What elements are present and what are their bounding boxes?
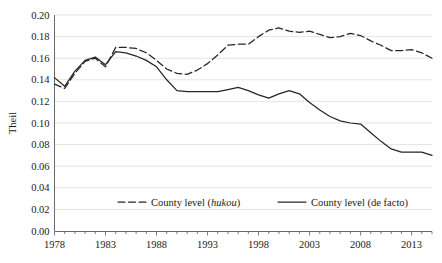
y-tick-label: 0.18 <box>31 31 49 42</box>
x-tick-label: 1993 <box>197 239 218 250</box>
y-tick-label: 0.16 <box>31 53 49 64</box>
y-tick-label: 0.10 <box>31 118 49 129</box>
series-line-de-facto <box>55 52 433 156</box>
x-tick-label: 2008 <box>350 239 371 250</box>
x-axis-ticks <box>55 232 433 236</box>
x-tick-label: 1988 <box>146 239 167 250</box>
x-axis-tick-labels: 19781983198819931998200320082013 <box>44 239 422 250</box>
x-tick-label: 1983 <box>95 239 116 250</box>
y-tick-label: 0.04 <box>31 182 50 193</box>
chart-figure: 0.000.020.040.060.080.100.120.140.160.18… <box>0 0 442 263</box>
x-tick-label: 2003 <box>299 239 320 250</box>
y-tick-label: 0.12 <box>31 96 49 107</box>
y-tick-label: 0.14 <box>31 74 50 85</box>
chart-legend: County level (hukou)County level (de fac… <box>118 197 409 209</box>
x-tick-label: 1978 <box>44 239 65 250</box>
y-axis-title: Theil <box>7 112 18 134</box>
legend-label-hukou: County level (hukou) <box>151 197 241 209</box>
y-tick-label: 0.06 <box>31 161 49 172</box>
theil-inequality-line-chart: 0.000.020.040.060.080.100.120.140.160.18… <box>0 0 442 263</box>
x-tick-label: 2013 <box>401 239 422 250</box>
y-tick-label: 0.20 <box>31 10 49 21</box>
y-tick-label: 0.02 <box>31 204 49 215</box>
y-tick-label: 0.08 <box>31 139 49 150</box>
y-axis-tick-labels: 0.000.020.040.060.080.100.120.140.160.18… <box>31 10 50 237</box>
legend-label-de-facto: County level (de facto) <box>311 197 409 209</box>
y-tick-label: 0.00 <box>31 226 49 237</box>
data-series-group <box>55 28 433 155</box>
x-tick-label: 1998 <box>248 239 269 250</box>
